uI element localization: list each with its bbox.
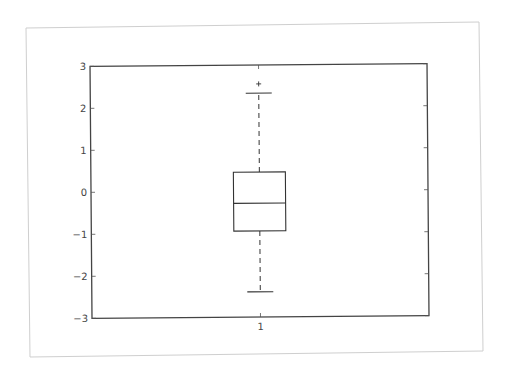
y-tick-label: −1 bbox=[73, 229, 88, 240]
scanned-page: −3−2−10123 1 bbox=[0, 0, 509, 376]
y-tick-label: 0 bbox=[81, 187, 87, 198]
y-tick-label: 1 bbox=[80, 145, 86, 156]
y-tick-label: −3 bbox=[73, 313, 88, 324]
upper-whisker bbox=[259, 93, 260, 172]
y-tick-label: 2 bbox=[80, 103, 86, 114]
y-tick-label: −2 bbox=[73, 271, 88, 282]
x-tick-label: 1 bbox=[257, 321, 263, 332]
paper-border bbox=[26, 22, 483, 357]
y-tick-label: 3 bbox=[80, 61, 86, 72]
